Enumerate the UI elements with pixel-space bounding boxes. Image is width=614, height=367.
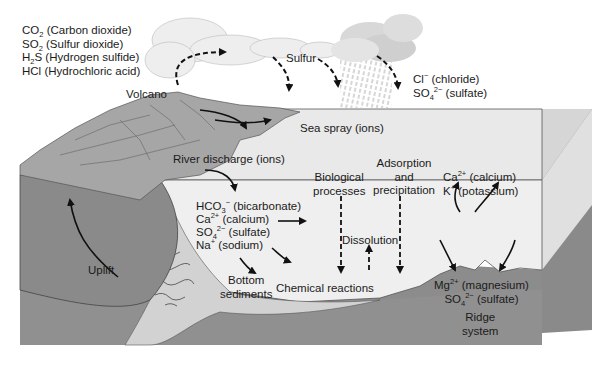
sea-spray-label: Sea spray (ions) bbox=[300, 122, 384, 136]
river-ion-calcium: Ca2+ (calcium) bbox=[196, 213, 301, 226]
gas-co2: CO2 (Carbon dioxide) bbox=[22, 24, 140, 38]
gas-so2: SO2 (Sulfur dioxide) bbox=[22, 38, 140, 52]
gas-hcl: HCl (Hydrochloric acid) bbox=[22, 65, 140, 79]
adsorption-precipitation-label: Adsorption and precipitation bbox=[373, 157, 435, 198]
ridge-input-magnesium: Mg2+ (magnesium) bbox=[434, 279, 529, 293]
rain-cloud bbox=[331, 14, 423, 108]
river-ion-list: HCO3− (bicarbonate) Ca2+ (calcium) SO42−… bbox=[196, 200, 301, 252]
bottom-sediments-label: Bottom sediments bbox=[220, 274, 272, 301]
uplift-lobe bbox=[20, 175, 178, 306]
gas-h2s: H2S (Hydrogen sulfide) bbox=[22, 51, 140, 65]
ridge-output-potassium: K+ (potassium) bbox=[443, 185, 518, 199]
biological-processes-label: Biological processes bbox=[313, 171, 365, 198]
ridge-input-sulfate: SO42− (sulfate) bbox=[434, 293, 529, 307]
sulfur-label: Sulfur bbox=[286, 52, 316, 66]
volcanic-gas-list: CO2 (Carbon dioxide) SO2 (Sulfur dioxide… bbox=[22, 24, 140, 78]
uplift-label: Uplift bbox=[88, 264, 114, 278]
dissolution-label: Dissolution bbox=[342, 234, 398, 248]
rain-ion-chloride: Cl− (chloride) bbox=[413, 73, 487, 87]
chemical-reactions-label: Chemical reactions bbox=[276, 282, 374, 296]
rain-ion-sulfate: SO42− (sulfate) bbox=[413, 87, 487, 101]
river-discharge-label: River discharge (ions) bbox=[173, 153, 285, 167]
rain-ions: Cl− (chloride) SO42− (sulfate) bbox=[413, 73, 487, 100]
volcanic-plume bbox=[145, 18, 340, 78]
river-ion-sodium: Na+ (sodium) bbox=[196, 239, 301, 252]
volcano-label: Volcano bbox=[126, 88, 167, 102]
ridge-output-ions: Ca2+ (calcium) K+ (potassium) bbox=[443, 171, 518, 198]
ridge-input-ions: Mg2+ (magnesium) SO42− (sulfate) bbox=[434, 279, 529, 306]
ridge-system-label: Ridge system bbox=[462, 311, 498, 338]
